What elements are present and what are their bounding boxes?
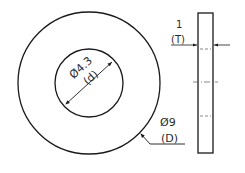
side-view-outline bbox=[198, 13, 213, 153]
side-view: 1 (T) bbox=[171, 13, 230, 153]
outer-diameter-value: Ø9 bbox=[160, 116, 176, 129]
thickness-symbol: (T) bbox=[171, 34, 185, 45]
washer-drawing: Ø4.3 (d) Ø9 (D) 1 (T) bbox=[0, 0, 245, 173]
front-view: Ø4.3 (d) Ø9 (D) bbox=[18, 12, 185, 154]
outer-diameter-symbol: (D) bbox=[161, 132, 178, 145]
thickness-value: 1 bbox=[176, 19, 182, 30]
